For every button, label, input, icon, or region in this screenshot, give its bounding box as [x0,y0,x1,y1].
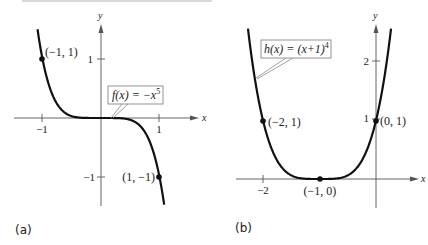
label-leader-line [257,58,293,79]
panel-label-b: (b) [235,221,252,235]
x-tick-label: −1 [36,123,48,135]
cropped-text-line [22,0,212,2]
y-tick-label: 1 [364,112,370,124]
y-tick-label: −1 [83,171,95,183]
x-axis-arrow-icon [410,177,419,182]
point-label: (−2, 1) [268,115,301,129]
point-label: (−1, 0) [304,184,337,198]
x-tick-label: −2 [257,184,269,196]
point-label: (−1, 1) [45,45,78,59]
panel-label-a: (a) [15,223,32,237]
point-marker [39,56,45,62]
x-axis-label: x [420,173,426,184]
function-label: h(x) = (x+1)4 [264,41,329,56]
y-axis-label: y [97,10,103,21]
x-axis-arrow-icon [190,116,199,121]
x-tick-label: 1 [156,123,162,135]
label-leader-line [256,58,286,78]
panel-a: x y −1 1 1 −1 (−1, 1) (1, −1) f(x) = −x5… [14,10,207,237]
y-tick-label: 1 [88,53,94,65]
y-axis-arrow-icon [99,24,104,33]
point-label: (1, −1) [122,170,155,184]
figure: x y −1 1 1 −1 (−1, 1) (1, −1) f(x) = −x5… [0,0,428,245]
x-axis-label: x [201,112,207,123]
point-marker [156,174,162,180]
function-label: f(x) = −x5 [112,87,160,102]
panel-b: x y −2 1 2 (−2, 1) (−1, 0) (0, 1) h(x) =… [235,10,426,235]
y-tick-label: 2 [364,55,370,67]
point-marker [373,118,379,124]
point-label: (0, 1) [380,114,406,128]
point-marker [260,118,266,124]
y-axis-label: y [372,10,378,21]
y-axis-arrow-icon [374,24,379,33]
point-marker [317,176,323,182]
